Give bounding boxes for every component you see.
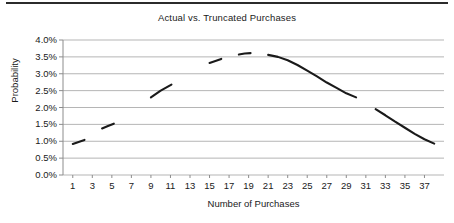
data-line-segment-4 [210,59,222,63]
y-tick-label: 1.5% [13,118,57,129]
x-tick-label: 11 [161,180,179,191]
x-tick-label: 3 [83,180,101,191]
data-line-segment-7 [376,109,435,143]
y-tick-label: 0.5% [13,152,57,163]
chart-figure: Actual vs. Truncated Purchases Probabili… [0,0,454,223]
data-line-segment-5 [239,53,251,54]
x-tick-label: 37 [415,180,433,191]
x-tick-label: 35 [396,180,414,191]
x-tick-label: 5 [103,180,121,191]
x-tick-label: 19 [240,180,258,191]
y-tick-label: 3.5% [13,51,57,62]
x-tick-label: 15 [201,180,219,191]
x-tick-label: 25 [298,180,316,191]
x-tick-label: 31 [357,180,375,191]
y-tick-label: 2.0% [13,102,57,113]
y-tick-label: 4.0% [13,34,57,45]
x-tick-label: 17 [220,180,238,191]
y-tick-label: 1.0% [13,135,57,146]
x-tick-label: 13 [181,180,199,191]
y-tick-label: 2.5% [13,85,57,96]
y-tick-label: 0.0% [13,169,57,180]
gridlines [63,40,444,175]
x-tick-label: 23 [279,180,297,191]
x-tick-label: 9 [142,180,160,191]
x-tick-label: 21 [259,180,277,191]
x-tick-label: 7 [122,180,140,191]
x-tick-label: 33 [376,180,394,191]
data-line-segment-1 [73,140,85,144]
x-tick-label: 27 [318,180,336,191]
tick-marks [59,40,424,178]
y-tick-label: 3.0% [13,68,57,79]
data-series-probability [73,53,434,144]
x-tick-label: 1 [64,180,82,191]
x-tick-label: 29 [337,180,355,191]
